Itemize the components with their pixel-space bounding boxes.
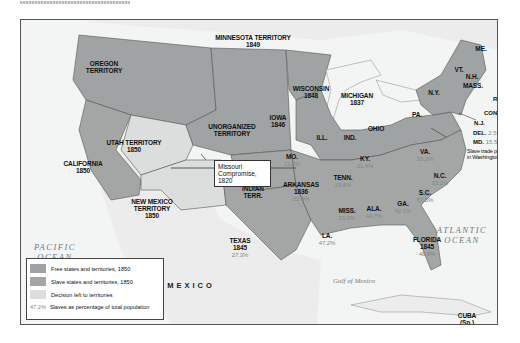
region-label-mo: MO.12.8% — [284, 154, 301, 167]
legend-item-slave: Slave states and territories, 1850 — [30, 277, 133, 286]
decision-swatch — [30, 290, 46, 299]
page-header-rule — [20, 1, 130, 4]
region-label-indian-terr: INDIANTERR. — [242, 186, 264, 200]
region-label-ri: R.I. — [493, 96, 498, 103]
region-label-unorganized: UNORGANIZEDTERRITORY — [208, 124, 255, 138]
region-label-ala: ALA.44.7% — [366, 206, 383, 219]
region-label-nc: N.C.33.2% — [432, 173, 449, 186]
region-label-va: VA.33.2% — [417, 149, 434, 162]
region-label-ohio: OHIO — [368, 126, 384, 133]
region-label-wisconsin: WISCONSIN1848 — [293, 86, 330, 100]
region-label-ny: N.Y. — [428, 90, 440, 97]
gulf-of-mexico-label: Gulf of Mexico — [333, 277, 375, 285]
region-label-nj: N.J. — [474, 120, 485, 127]
legend-item-percentage: 47.2% Slaves as percentage of total popu… — [30, 304, 149, 310]
region-label-michigan: MICHIGAN1837 — [341, 93, 373, 107]
region-label-ind: IND. — [344, 135, 357, 142]
region-label-arkansas: ARKANSAS183622.4% — [283, 182, 319, 202]
region-label-texas: TEXAS184527.3% — [229, 238, 250, 258]
region-label-ky: KY.21.4% — [357, 156, 374, 169]
legend-item-decision: Decision left to territories — [30, 290, 113, 299]
region-label-ill: ILL. — [316, 135, 327, 142]
region-label-minnesota: MINNESOTA TERRITORY1849 — [215, 35, 290, 49]
region-label-mass: MASS. — [463, 83, 483, 90]
region-label-ga: GA.42.1% — [395, 201, 412, 214]
map-legend: Free states and territories, 1850 Slave … — [26, 258, 164, 320]
region-label-conn: CONN. — [484, 110, 498, 117]
region-label-del: DEL. 2.5% — [473, 130, 498, 137]
slave-swatch — [30, 277, 46, 286]
region-label-cuba: CUBA(Sp.) — [458, 313, 476, 325]
region-label-la: LA.47.2% — [319, 233, 336, 246]
region-label-utah: UTAH TERRITORY1850 — [106, 140, 161, 154]
region-label-iowa: IOWA1846 — [270, 115, 287, 129]
region-label-california: CALIFORNIA1850 — [63, 161, 102, 175]
region-label-nh: N.H. — [466, 74, 479, 81]
region-label-miss: MISS.51.0% — [338, 208, 355, 221]
region-label-md: MD. 15.5% — [473, 139, 498, 146]
region-label-sc: S.C.57.5% — [417, 190, 434, 203]
free-swatch — [30, 264, 46, 273]
atlantic-ocean-label: ATLANTICOCEAN — [437, 226, 487, 246]
mexico-label: MEXICO — [167, 281, 215, 290]
legend-item-free: Free states and territories, 1850 — [30, 264, 130, 273]
region-label-pa: PA. — [412, 112, 422, 119]
region-label-oregon: OREGONTERRITORY — [86, 61, 122, 75]
dc-slave-trade-note: Slave trade prohibited in Washington, D.… — [467, 148, 498, 160]
region-label-tenn: TENN.23.8% — [333, 175, 352, 188]
great-lakes — [326, 60, 381, 120]
region-label-vt: VT. — [454, 67, 463, 74]
missouri-compromise-callout: Missouri Compromise, 1820 — [214, 160, 271, 187]
region-label-me: ME. — [475, 46, 486, 53]
region-label-new-mexico: NEW MEXICOTERRITORY1850 — [131, 199, 173, 219]
